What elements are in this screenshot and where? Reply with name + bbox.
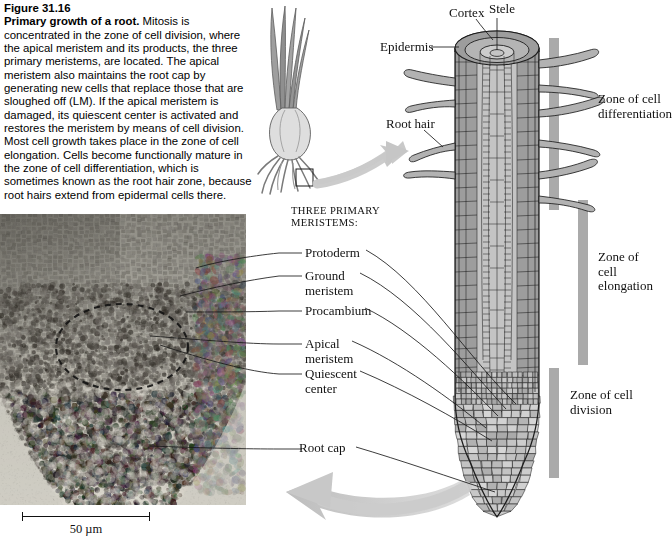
label-cortex: Cortex: [449, 6, 484, 20]
label-quiescent-center-line2: center: [305, 382, 357, 397]
zone-label-elongation: Zone of cell elongation: [598, 250, 660, 294]
zone-division-line1: Zone of cell: [570, 388, 633, 403]
zone-label-differentiation: Zone of cell differentiation: [598, 92, 672, 121]
label-root-hair: Root hair: [386, 117, 435, 131]
label-protoderm-line1: Protoderm: [305, 246, 360, 261]
label-apical-meristem: Apical meristem: [305, 337, 353, 366]
label-procambium-line1: Procambium: [305, 304, 371, 319]
zone-division-line2: division: [570, 403, 633, 418]
label-quiescent-center-line1: Quiescent: [305, 367, 357, 382]
meristems-heading: THREE PRIMARY MERISTEMS:: [291, 205, 380, 230]
label-stele: Stele: [489, 2, 515, 16]
label-epidermis: Epidermis: [380, 40, 433, 54]
label-procambium: Procambium: [305, 304, 371, 319]
label-apical-meristem-line1: Apical: [305, 337, 353, 352]
zone-elongation-line2: elongation: [598, 279, 660, 294]
zone-bar-division: [549, 368, 559, 478]
zone-differentiation-line2: differentiation: [598, 107, 672, 122]
meristems-heading-line2: MERISTEMS:: [291, 217, 380, 229]
curved-arrow-right-icon: [316, 141, 409, 185]
zone-differentiation-line1: Zone of cell: [598, 92, 672, 107]
zone-elongation-line1: Zone of cell: [598, 250, 660, 279]
label-ground-meristem: Ground meristem: [305, 269, 353, 298]
zone-label-division: Zone of cell division: [570, 388, 633, 417]
label-root-cap: Root cap: [299, 441, 346, 455]
label-quiescent-center: Quiescent center: [305, 367, 357, 396]
root-diagram: [404, 31, 605, 517]
label-protoderm: Protoderm: [305, 246, 360, 261]
zone-bar-elongation: [578, 200, 588, 365]
label-apical-meristem-line2: meristem: [305, 352, 353, 367]
label-ground-meristem-line2: meristem: [305, 284, 353, 299]
meristems-heading-line1: THREE PRIMARY: [291, 205, 380, 217]
label-ground-meristem-line1: Ground: [305, 269, 353, 284]
curved-arrow-left-icon: [286, 472, 470, 520]
plant-sketch-icon: [258, 6, 318, 194]
